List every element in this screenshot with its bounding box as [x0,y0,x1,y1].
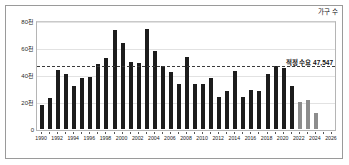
bar-2019 [274,66,278,129]
x-axis-tick-label: 1990 [35,136,47,141]
y-axis-tick-label: 0 [31,127,34,133]
bar-2011 [209,78,213,129]
x-axis-tick-mark [57,132,58,134]
x-axis-tick-label: 2018 [261,136,273,141]
optimal-demand-line [37,66,335,67]
bar-2014 [233,71,237,129]
x-axis-tick-label: 2016 [245,136,257,141]
x-axis-tick-mark [202,132,203,134]
x-axis-tick-mark [315,132,316,134]
x-axis-tick-label: 2000 [116,136,128,141]
x-axis-tick-label: 2024 [309,136,321,141]
bar-2005 [161,66,165,129]
bar-2023 [306,100,310,129]
y-axis-tick-label: 40천 [21,73,34,79]
bar-2010 [201,84,205,129]
x-axis-tick-label: 2006 [164,136,176,141]
bar-1995 [80,78,84,129]
bar-1990 [40,105,44,129]
x-axis-tick-mark [331,132,332,134]
bar-2008 [185,57,189,129]
x-axis-tick-label: 2008 [180,136,192,141]
x-axis-tick-mark [162,132,163,134]
bar-2013 [225,91,229,129]
x-axis-tick-mark [41,132,42,134]
bar-1999 [113,30,117,129]
x-axis-tick-mark [97,132,98,134]
x-axis-tick-mark [291,132,292,134]
bar-1996 [88,77,92,129]
x-axis-tick-mark [130,132,131,134]
x-axis-tick-mark [226,132,227,134]
chart-container: 가구 수 020천40천60천80천 적정 수요 47,547 19901992… [5,5,343,159]
plot-area: 020천40천60천80천 적정 수요 47,547 [36,21,336,131]
x-axis-tick-label: 2012 [212,136,224,141]
bar-2020 [282,68,286,129]
bar-series [38,23,334,129]
x-axis-tick-mark [234,132,235,134]
x-axis-tick-mark [250,132,251,134]
bar-2007 [177,84,181,129]
x-axis-tick-label: 2010 [196,136,208,141]
x-axis-tick-mark [258,132,259,134]
x-axis-tick-mark [49,132,50,134]
x-axis-tick-mark [307,132,308,134]
x-axis-tick-label: 1998 [100,136,112,141]
bar-2021 [290,86,294,129]
x-axis: 1990199219941996199820002002200420062008… [36,132,336,154]
y-axis-tick-label: 80천 [21,19,34,25]
x-axis-tick-label: 2014 [229,136,241,141]
x-axis-tick-mark [267,132,268,134]
x-axis-tick-mark [170,132,171,134]
bar-2009 [193,84,197,129]
x-axis-tick-mark [186,132,187,134]
x-axis-tick-mark [178,132,179,134]
bar-1998 [104,58,108,129]
x-axis-tick-label: 2002 [132,136,144,141]
optimal-demand-label: 적정 수요 47,547 [286,59,334,66]
x-axis-tick-label: 2022 [293,136,305,141]
bar-1994 [72,86,76,129]
x-axis-tick-mark [275,132,276,134]
x-axis-tick-mark [122,132,123,134]
x-axis-tick-mark [299,132,300,134]
bar-2004 [153,51,157,129]
x-axis-tick-mark [194,132,195,134]
unit-label: 가구 수 [318,9,338,16]
x-axis-tick-mark [242,132,243,134]
bar-2022 [298,102,302,129]
bar-2002 [137,63,141,129]
x-axis-tick-label: 1994 [67,136,79,141]
x-axis-tick-mark [73,132,74,134]
x-axis-tick-mark [114,132,115,134]
bar-2018 [266,74,270,129]
x-axis-tick-label: 1992 [51,136,63,141]
x-axis-tick-mark [283,132,284,134]
bar-2003 [145,29,149,129]
bar-1992 [56,70,60,129]
y-axis-tick-label: 20천 [21,100,34,106]
bar-2015 [241,97,245,129]
bar-2001 [129,62,133,130]
bar-1991 [48,98,52,129]
x-axis-tick-label: 2020 [277,136,289,141]
x-axis-tick-label: 1996 [84,136,96,141]
x-axis-tick-label: 2004 [148,136,160,141]
bar-2024 [314,113,318,129]
bar-1993 [64,74,68,129]
y-axis-tick-label: 60천 [21,46,34,52]
x-axis-tick-mark [323,132,324,134]
bar-1997 [96,64,100,129]
x-axis-tick-mark [89,132,90,134]
x-axis-tick-mark [138,132,139,134]
bar-2012 [217,97,221,129]
x-axis-tick-mark [218,132,219,134]
bar-2017 [257,91,261,129]
bar-2016 [249,90,253,129]
bar-2006 [169,72,173,129]
x-axis-tick-mark [146,132,147,134]
bar-2000 [121,43,125,129]
x-axis-tick-mark [105,132,106,134]
x-axis-tick-mark [154,132,155,134]
x-axis-tick-label: 2026 [325,136,337,141]
